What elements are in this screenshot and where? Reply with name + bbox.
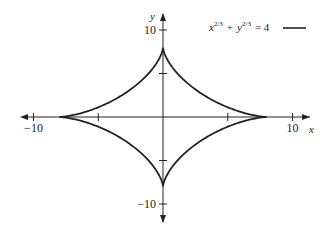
legend-label: x2/3+y2/3= 4	[208, 20, 270, 33]
x-axis-arrow-left	[20, 114, 28, 120]
y-tick-label: −10	[137, 197, 156, 211]
x-axis-label: x	[308, 123, 314, 135]
y-axis-label: y	[149, 10, 155, 22]
y-axis-arrow-up	[160, 13, 166, 21]
legend: x2/3+y2/3= 4	[208, 20, 306, 33]
astroid-chart: −101010−10 x y x2/3+y2/3= 4	[0, 0, 330, 235]
legend-rhs: = 4	[255, 21, 270, 33]
y-tick-label: 10	[144, 23, 156, 37]
legend-x-exp: 2/3	[214, 20, 223, 28]
x-tick-label: 10	[287, 121, 299, 135]
y-axis-arrow-down	[160, 215, 166, 223]
x-axis-arrow-right	[302, 114, 310, 120]
x-tick-label: −10	[24, 121, 43, 135]
legend-plus: +	[227, 21, 233, 33]
legend-y-exp: 2/3	[242, 20, 251, 28]
